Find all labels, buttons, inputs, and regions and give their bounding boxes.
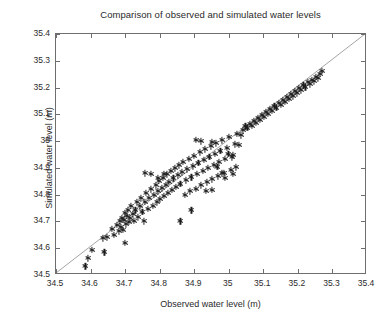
x-tick-mark xyxy=(91,34,92,38)
y-tick-mark xyxy=(56,34,60,35)
x-tick-label: 34.7 xyxy=(116,278,133,288)
x-tick-label: 35 xyxy=(223,278,232,288)
x-tick-mark xyxy=(229,269,230,273)
y-tick-mark xyxy=(56,221,60,222)
y-tick-mark xyxy=(361,221,365,222)
x-tick-label: 34.6 xyxy=(81,278,98,288)
y-tick-label: 35.4 xyxy=(17,28,50,38)
y-tick-mark xyxy=(361,34,365,35)
plot-area xyxy=(55,33,366,274)
x-tick-mark xyxy=(56,269,57,273)
x-tick-label: 35.2 xyxy=(289,278,306,288)
y-tick-mark xyxy=(56,114,60,115)
y-tick-mark xyxy=(56,88,60,89)
x-tick-mark xyxy=(332,34,333,38)
x-tick-label: 34.5 xyxy=(47,278,64,288)
y-tick-mark xyxy=(56,61,60,62)
y-tick-mark xyxy=(361,195,365,196)
x-tick-mark xyxy=(125,269,126,273)
x-tick-mark xyxy=(263,269,264,273)
y-axis-label: Simulated water level (m) xyxy=(44,58,54,258)
x-tick-mark xyxy=(298,34,299,38)
x-tick-label: 34.8 xyxy=(150,278,167,288)
y-tick-mark xyxy=(56,141,60,142)
y-tick-label: 34.5 xyxy=(17,269,50,279)
x-tick-mark xyxy=(332,269,333,273)
chart-title: Comparison of observed and simulated wat… xyxy=(55,9,366,20)
y-tick-mark xyxy=(361,168,365,169)
x-tick-label: 34.9 xyxy=(185,278,202,288)
x-tick-mark xyxy=(229,34,230,38)
x-axis-label: Observed water level (m) xyxy=(55,299,366,309)
y-tick-mark xyxy=(56,248,60,249)
x-tick-mark xyxy=(263,34,264,38)
x-tick-label: 35.3 xyxy=(323,278,340,288)
y-tick-mark xyxy=(361,61,365,62)
x-tick-label: 35.1 xyxy=(254,278,271,288)
x-tick-mark xyxy=(194,34,195,38)
x-tick-label: 35.4 xyxy=(358,278,375,288)
x-tick-mark xyxy=(194,269,195,273)
x-tick-mark xyxy=(125,34,126,38)
y-tick-mark xyxy=(56,168,60,169)
x-tick-mark xyxy=(91,269,92,273)
chart-figure: Comparison of observed and simulated wat… xyxy=(0,0,392,322)
y-tick-mark xyxy=(361,248,365,249)
x-tick-mark xyxy=(298,269,299,273)
y-tick-mark xyxy=(361,88,365,89)
y-tick-mark xyxy=(361,141,365,142)
identity-reference-line xyxy=(56,34,365,273)
x-tick-mark xyxy=(160,269,161,273)
y-tick-mark xyxy=(56,195,60,196)
x-tick-mark xyxy=(160,34,161,38)
y-tick-mark xyxy=(361,114,365,115)
